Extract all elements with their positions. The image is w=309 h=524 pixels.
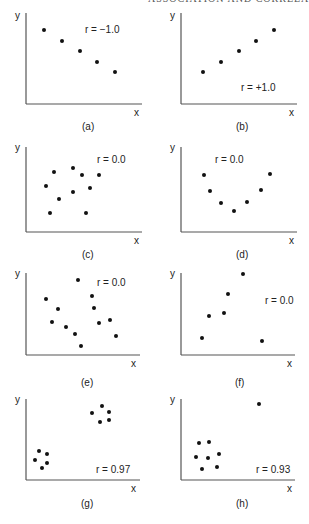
x-axis-label: x: [287, 358, 292, 369]
panel-label: (d): [236, 249, 248, 260]
data-point: [202, 173, 206, 177]
data-point: [42, 28, 46, 32]
correlation-annotation: r = −1.0: [85, 24, 120, 35]
x-axis-label: x: [289, 235, 294, 246]
data-point: [60, 39, 64, 43]
panel-label: (e): [81, 377, 93, 388]
x-axis-label: x: [134, 107, 139, 118]
data-point: [45, 461, 49, 465]
data-point: [206, 456, 210, 460]
data-point: [257, 402, 261, 406]
data-point: [33, 458, 37, 462]
data-point: [45, 452, 49, 456]
data-point: [64, 325, 68, 329]
x-axis-label: x: [131, 358, 136, 369]
scatter-panel-h: yxr = 0.93(h): [170, 394, 295, 509]
data-point: [108, 318, 112, 322]
data-point: [98, 420, 102, 424]
panel-label: (c): [82, 249, 94, 260]
data-point: [50, 320, 54, 324]
data-point: [80, 173, 84, 177]
data-point: [73, 332, 77, 336]
data-point: [245, 200, 249, 204]
data-point: [84, 211, 88, 215]
data-point: [226, 292, 230, 296]
data-point: [78, 49, 82, 53]
data-point: [259, 188, 263, 192]
data-point: [40, 466, 44, 470]
data-point: [113, 70, 117, 74]
data-point: [44, 297, 48, 301]
data-point: [207, 314, 211, 318]
scatter-panel-b: yxr = +1.0(b): [170, 10, 297, 132]
panel-label: (g): [81, 498, 93, 509]
data-point: [44, 184, 48, 188]
data-point: [48, 211, 52, 215]
data-point: [97, 321, 101, 325]
data-point: [114, 334, 118, 338]
data-point: [215, 465, 219, 469]
correlation-annotation: r = 0.93: [256, 464, 291, 475]
data-point: [107, 410, 111, 414]
y-axis-label: y: [15, 10, 20, 21]
y-axis-label: y: [170, 10, 175, 21]
y-axis-label: y: [170, 142, 175, 153]
correlation-annotation: r = 0.97: [96, 464, 131, 475]
correlation-annotation: r = +1.0: [241, 82, 276, 93]
data-point: [90, 411, 94, 415]
data-point: [79, 344, 83, 348]
data-point: [254, 39, 258, 43]
panel-label: (a): [82, 121, 94, 132]
x-axis-label: x: [289, 107, 294, 118]
data-point: [219, 201, 223, 205]
data-point: [95, 60, 99, 64]
x-axis-label: x: [287, 483, 292, 494]
scatter-panel-e: yxr = 0.0(e): [15, 268, 140, 388]
correlation-annotation: r = 0.0: [97, 154, 126, 165]
data-point: [52, 170, 56, 174]
data-point: [194, 455, 198, 459]
data-point: [260, 339, 264, 343]
data-point: [241, 272, 245, 276]
data-point: [57, 197, 61, 201]
panel-label: (b): [236, 121, 248, 132]
data-point: [268, 172, 272, 176]
data-point: [272, 28, 276, 32]
scatter-panel-c: yxr = 0.0(c): [15, 142, 142, 260]
scatter-panel-f: yxr = 0.0(f): [170, 268, 295, 388]
scatter-panel-a: yxr = −1.0(a): [15, 10, 142, 132]
data-point: [237, 49, 241, 53]
correlation-annotation: r = 0.0: [265, 295, 294, 306]
correlation-annotation: r = 0.0: [215, 154, 244, 165]
data-point: [56, 307, 60, 311]
data-point: [107, 418, 111, 422]
data-point: [71, 190, 75, 194]
data-point: [37, 449, 41, 453]
data-point: [232, 209, 236, 213]
scatter-panel-g: yxr = 0.97(g): [15, 394, 140, 509]
y-axis-label: y: [15, 268, 20, 279]
data-point: [197, 441, 201, 445]
panel-label: (f): [235, 377, 244, 388]
data-point: [88, 186, 92, 190]
y-axis-label: y: [170, 394, 175, 405]
data-point: [201, 70, 205, 74]
y-axis-label: y: [15, 142, 20, 153]
data-point: [76, 278, 80, 282]
y-axis-label: y: [170, 268, 175, 279]
data-point: [207, 440, 211, 444]
data-point: [217, 452, 221, 456]
data-point: [200, 336, 204, 340]
x-axis-label: x: [134, 235, 139, 246]
data-point: [92, 306, 96, 310]
x-axis-label: x: [131, 483, 136, 494]
data-point: [208, 189, 212, 193]
data-point: [222, 311, 226, 315]
data-point: [71, 166, 75, 170]
data-point: [97, 173, 101, 177]
data-point: [100, 404, 104, 408]
correlation-annotation: r = 0.0: [97, 277, 126, 288]
panel-label: (h): [236, 498, 248, 509]
data-point: [200, 467, 204, 471]
data-point: [219, 60, 223, 64]
